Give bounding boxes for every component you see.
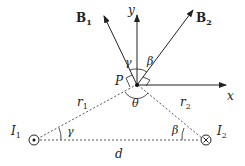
label-x: x [227, 90, 234, 102]
point-P [135, 83, 139, 87]
label-I2: I2 [217, 125, 227, 140]
label-gamma-top: γ [125, 57, 132, 68]
label-beta-bottom: β [172, 125, 178, 136]
current-I1-out-icon [29, 135, 39, 145]
label-beta-top: β [147, 56, 153, 67]
beta-bottom-arc [182, 128, 184, 140]
gamma-top-arc [130, 69, 137, 70]
B2-arrow [137, 10, 193, 85]
label-d: d [115, 148, 123, 160]
label-y: y [128, 4, 135, 16]
label-P: P [115, 75, 123, 87]
r1-line [37, 85, 136, 139]
label-B1: B1 [76, 12, 92, 26]
current-I2-in-icon [201, 135, 211, 145]
label-gamma-bottom: γ [67, 126, 74, 137]
label-I1: I1 [11, 125, 21, 140]
diagram-canvas: B1 B2 y x P γ β θ r1 r2 I1 I2 γ β d [0, 0, 245, 166]
beta-top-arc [137, 69, 147, 72]
label-r1: r1 [77, 96, 88, 111]
label-theta: θ [132, 98, 139, 109]
gamma-bottom-arc [59, 128, 61, 140]
label-B2: B2 [196, 12, 212, 26]
label-r2: r2 [180, 96, 191, 111]
